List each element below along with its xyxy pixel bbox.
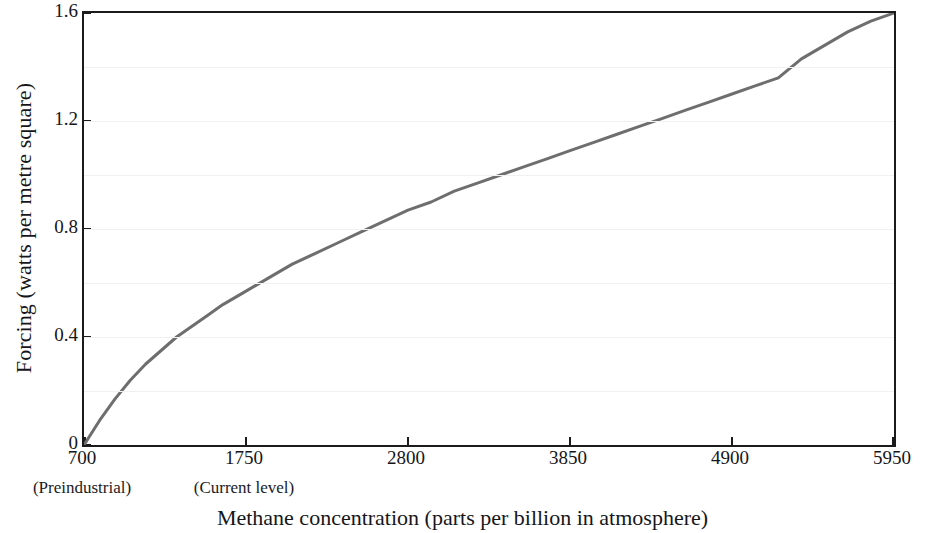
- plot-area: [82, 11, 896, 447]
- y-tick-label: 1.6: [32, 1, 78, 20]
- scan-artifact-line: [84, 283, 894, 284]
- y-tick-label: 0.8: [32, 217, 78, 236]
- scan-artifact-line: [84, 337, 894, 338]
- x-axis-ticks: [85, 437, 893, 445]
- x-axis-title: Methane concentration (parts per billion…: [0, 505, 925, 531]
- chart-figure: Forcing (watts per metre square) 1.6 1.2…: [0, 0, 925, 533]
- y-tick-label: 1.2: [32, 109, 78, 128]
- x-tick-label: 700: [22, 447, 142, 469]
- x-tick-label: 1750: [184, 447, 304, 469]
- x-tick-label: 4900: [670, 447, 790, 469]
- x-tick-label: 2800: [346, 447, 466, 469]
- scan-artifact-line: [84, 175, 894, 176]
- x-axis-tick-labels: 700 1750 2800 3850 4900 5950: [0, 447, 925, 477]
- scan-artifact-line: [84, 391, 894, 392]
- scan-artifact-line: [84, 229, 894, 230]
- x-axis-annotations: (Preindustrial) (Current level): [0, 478, 925, 506]
- x-tick-label: 3850: [508, 447, 628, 469]
- scan-artifact-line: [84, 67, 894, 68]
- x-tick-label: 5950: [832, 447, 925, 469]
- x-annotation-current-level: (Current level): [124, 478, 364, 498]
- y-tick-label: 0.4: [32, 325, 78, 344]
- scan-artifact-line: [84, 121, 894, 122]
